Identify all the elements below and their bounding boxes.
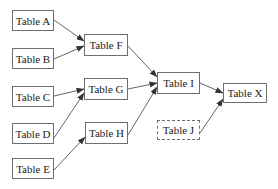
table-node-i[interactable]: Table I xyxy=(157,72,200,94)
edge-a-to-f xyxy=(54,20,84,41)
lineage-diagram: Table ATable BTable CTable DTable ETable… xyxy=(0,0,278,189)
edge-j-to-x xyxy=(200,99,223,133)
edge-b-to-f xyxy=(54,46,84,59)
table-node-e[interactable]: Table E xyxy=(12,158,54,179)
table-node-j[interactable]: Table J xyxy=(157,120,200,140)
table-node-g[interactable]: Table G xyxy=(84,78,128,100)
table-node-c[interactable]: Table C xyxy=(12,86,54,107)
edge-f-to-i xyxy=(128,46,157,77)
table-node-x[interactable]: Table X xyxy=(223,83,267,103)
table-node-b[interactable]: Table B xyxy=(12,48,54,69)
edge-d-to-g xyxy=(54,93,84,138)
edge-c-to-g xyxy=(54,89,84,96)
edge-g-to-i xyxy=(128,83,157,89)
table-node-f[interactable]: Table F xyxy=(84,34,128,56)
table-node-d[interactable]: Table D xyxy=(12,123,54,144)
table-node-a[interactable]: Table A xyxy=(12,10,54,31)
edge-i-to-x xyxy=(200,83,223,93)
edge-e-to-h xyxy=(54,137,85,170)
edge-h-to-i xyxy=(128,87,157,135)
table-node-h[interactable]: Table H xyxy=(85,122,128,144)
